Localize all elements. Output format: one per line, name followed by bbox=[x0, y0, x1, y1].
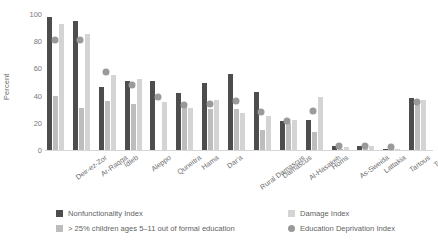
education-deprivation-marker[interactable] bbox=[154, 93, 161, 100]
bar[interactable] bbox=[188, 108, 193, 150]
chart-legend: Nonfunctionality IndexDamage Index> 25% … bbox=[56, 209, 436, 243]
bar-stack bbox=[125, 14, 147, 150]
bar[interactable] bbox=[415, 105, 420, 150]
bar-group bbox=[202, 14, 224, 150]
legend-square-icon bbox=[56, 210, 63, 217]
bar-stack bbox=[228, 14, 250, 150]
bar[interactable] bbox=[79, 108, 84, 150]
legend-item[interactable]: Education Deprivation Index bbox=[288, 224, 395, 233]
bar-stack bbox=[280, 14, 302, 150]
bar[interactable] bbox=[202, 83, 207, 150]
x-axis-line bbox=[45, 150, 433, 151]
y-tick-label: 80 bbox=[16, 37, 42, 46]
education-deprivation-marker[interactable] bbox=[284, 118, 291, 125]
education-deprivation-marker[interactable] bbox=[77, 36, 84, 43]
education-deprivation-marker[interactable] bbox=[51, 36, 58, 43]
bar[interactable] bbox=[369, 146, 374, 150]
bar[interactable] bbox=[125, 81, 130, 150]
education-deprivation-marker[interactable] bbox=[206, 100, 213, 107]
bar[interactable] bbox=[99, 87, 104, 150]
education-deprivation-marker[interactable] bbox=[232, 98, 239, 105]
bar[interactable] bbox=[312, 132, 317, 150]
x-tick-label: Tartous bbox=[408, 153, 432, 174]
bar-group bbox=[306, 14, 328, 150]
y-tick-label: 100 bbox=[16, 10, 42, 19]
bar-stack bbox=[306, 14, 328, 150]
bar-group bbox=[228, 14, 250, 150]
bar[interactable] bbox=[53, 96, 58, 150]
education-deprivation-marker[interactable] bbox=[413, 99, 420, 106]
education-deprivation-marker[interactable] bbox=[103, 69, 110, 76]
education-deprivation-marker[interactable] bbox=[336, 142, 343, 149]
bar[interactable] bbox=[150, 81, 155, 150]
bar[interactable] bbox=[162, 102, 167, 150]
bar[interactable] bbox=[228, 74, 233, 150]
legend-item[interactable]: Damage Index bbox=[288, 209, 349, 218]
bar-stack bbox=[202, 14, 224, 150]
plot-area bbox=[45, 14, 433, 150]
bar[interactable] bbox=[59, 24, 64, 150]
x-tick-label: Total bbox=[432, 153, 438, 169]
legend-circle-icon bbox=[288, 225, 295, 232]
bar-group bbox=[47, 14, 69, 150]
bar-group bbox=[280, 14, 302, 150]
bar[interactable] bbox=[182, 106, 187, 150]
legend-label: Damage Index bbox=[300, 209, 349, 218]
education-deprivation-marker[interactable] bbox=[361, 142, 368, 149]
bar[interactable] bbox=[409, 98, 414, 150]
bar[interactable] bbox=[208, 109, 213, 150]
bar-group bbox=[125, 14, 147, 150]
bar[interactable] bbox=[266, 116, 271, 150]
bar[interactable] bbox=[234, 109, 239, 150]
legend-label: Education Deprivation Index bbox=[300, 224, 395, 233]
legend-item[interactable]: Nonfunctionality Index bbox=[56, 209, 143, 218]
bar-stack bbox=[357, 14, 379, 150]
bar-stack bbox=[176, 14, 198, 150]
education-deprivation-marker[interactable] bbox=[180, 102, 187, 109]
bar-stack bbox=[254, 14, 276, 150]
bar-stack bbox=[99, 14, 121, 150]
bar[interactable] bbox=[292, 120, 297, 150]
bar[interactable] bbox=[105, 101, 110, 150]
bar[interactable] bbox=[85, 34, 90, 150]
bar[interactable] bbox=[137, 79, 142, 150]
legend-item[interactable]: > 25% children ages 5–11 out of formal e… bbox=[56, 224, 235, 233]
bar[interactable] bbox=[421, 100, 426, 150]
y-tick-label: 20 bbox=[16, 118, 42, 127]
bar[interactable] bbox=[214, 100, 219, 150]
x-tick-label: Hama bbox=[200, 153, 221, 172]
bar[interactable] bbox=[240, 113, 245, 150]
bar[interactable] bbox=[260, 130, 265, 150]
bar-group bbox=[73, 14, 95, 150]
bar-stack bbox=[47, 14, 69, 150]
bar[interactable] bbox=[318, 97, 323, 150]
y-tick-label: 0 bbox=[16, 146, 42, 155]
legend-square-icon bbox=[56, 225, 63, 232]
bar[interactable] bbox=[254, 92, 259, 150]
education-deprivation-marker[interactable] bbox=[387, 144, 394, 151]
legend-label: Nonfunctionality Index bbox=[68, 209, 143, 218]
bar[interactable] bbox=[286, 123, 291, 150]
education-deprivation-marker[interactable] bbox=[258, 108, 265, 115]
education-deprivation-marker[interactable] bbox=[310, 107, 317, 114]
y-tick-label: 60 bbox=[16, 64, 42, 73]
bar[interactable] bbox=[111, 75, 116, 150]
bar[interactable] bbox=[344, 147, 349, 150]
bar-group bbox=[409, 14, 431, 150]
bar-stack bbox=[383, 14, 405, 150]
bar-group bbox=[254, 14, 276, 150]
bar-group bbox=[383, 14, 405, 150]
legend-label: > 25% children ages 5–11 out of formal e… bbox=[68, 224, 235, 233]
bar-group bbox=[99, 14, 121, 150]
bar[interactable] bbox=[280, 121, 285, 150]
bar[interactable] bbox=[395, 149, 400, 150]
bar-stack bbox=[73, 14, 95, 150]
education-deprivation-marker[interactable] bbox=[129, 81, 136, 88]
bar[interactable] bbox=[306, 120, 311, 150]
bar-group bbox=[150, 14, 172, 150]
education-deprivation-bar-chart: Percent 020406080100 Deir-ez-ZorAr-Raqqa… bbox=[0, 0, 438, 246]
bar[interactable] bbox=[131, 104, 136, 150]
bar-group bbox=[357, 14, 379, 150]
bar-group bbox=[332, 14, 354, 150]
bar-group bbox=[176, 14, 198, 150]
